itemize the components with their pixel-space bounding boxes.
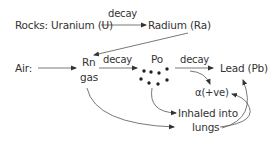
node-po: Po [151, 54, 163, 65]
node-rn-gas: gas [80, 72, 98, 83]
radon-decay-diagram: Rocks: Uranium (U) decay Radium (Ra) Air… [0, 0, 273, 143]
node-lead: Lead (Pb) [220, 63, 268, 74]
node-rocks-uranium: Rocks: Uranium (U) [15, 20, 113, 31]
edge-label-decay-rn-po: decay [103, 55, 132, 65]
node-rn: Rn [82, 57, 96, 68]
arrow-radium-to-rn [94, 33, 188, 55]
arrow-po-to-alpha [190, 71, 210, 84]
node-inhaled-line2: lungs [192, 122, 219, 133]
node-radium: Radium (Ra) [148, 20, 211, 31]
edge-label-decay-u-ra: decay [108, 9, 137, 19]
node-inhaled-line1: Inhaled into [178, 108, 238, 119]
po-particle-dots [139, 67, 168, 85]
arrow-po-to-inhaled [152, 88, 177, 113]
edge-label-decay-po-pb: decay [180, 55, 209, 65]
node-air: Air: [15, 63, 32, 74]
node-alpha-particle: α(+ve) [195, 88, 229, 98]
arrow-rn-to-lungs [87, 88, 174, 127]
